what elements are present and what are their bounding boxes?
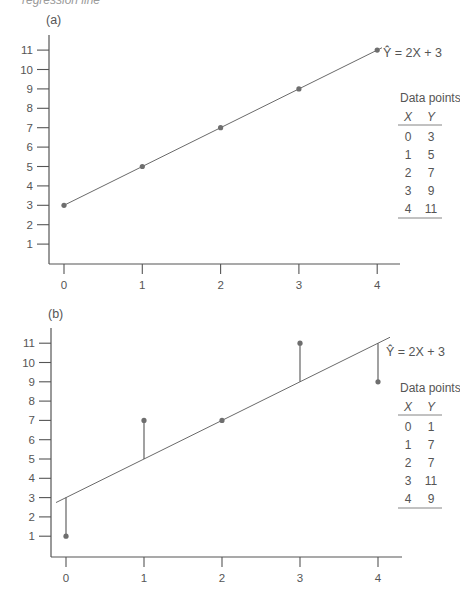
data-point	[140, 164, 145, 169]
table-cell: 9	[428, 184, 435, 198]
y-tick-label: 7	[27, 122, 33, 134]
data-point	[297, 341, 302, 346]
table-cell: 4	[405, 202, 412, 216]
table-cell: 5	[428, 148, 435, 162]
y-tick-label: 9	[27, 83, 33, 95]
data-point	[218, 125, 223, 130]
x-tick-label: 2	[219, 572, 225, 584]
table-cell: 3	[405, 184, 412, 198]
y-tick-label: 2	[27, 219, 33, 231]
table-cell: 11	[425, 202, 438, 216]
y-tick-label: 11	[23, 337, 35, 349]
y-tick-label: 9	[29, 376, 35, 388]
x-tick-label: 4	[374, 279, 381, 291]
regression-equation: Ŷ = 2X + 3	[383, 45, 442, 60]
y-tick-label: 2	[29, 511, 35, 523]
y-tick-label: 3	[29, 492, 35, 504]
table-cell: 7	[428, 438, 435, 452]
table-cell: 1	[405, 438, 412, 452]
table-cell: 3	[405, 474, 412, 488]
chart-panel-b: (b)123456789101101234Ŷ = 2X + 3Data poin…	[22, 307, 460, 584]
table-title: Data points	[400, 381, 460, 395]
panel-label: (b)	[48, 307, 63, 321]
x-tick-label: 4	[375, 572, 382, 584]
data-point	[63, 534, 68, 539]
table-cell: 1	[428, 420, 435, 434]
table-cell: 11	[425, 474, 438, 488]
table-header: X	[403, 400, 413, 414]
x-tick-label: 2	[217, 279, 223, 291]
y-tick-label: 11	[21, 44, 33, 56]
data-point	[219, 418, 224, 423]
data-point	[296, 86, 301, 91]
x-tick-label: 0	[63, 572, 69, 584]
table-cell: 7	[428, 166, 435, 180]
y-tick-label: 5	[27, 161, 33, 173]
table-cell: 7	[428, 456, 435, 470]
y-tick-label: 7	[29, 414, 35, 426]
table-cell: 2	[405, 456, 412, 470]
y-tick-label: 8	[29, 395, 35, 407]
y-tick-label: 4	[29, 472, 36, 484]
regression-line	[64, 48, 382, 206]
regression-equation: Ŷ = 2X + 3	[386, 344, 445, 359]
x-tick-label: 1	[139, 279, 145, 291]
table-cell: 4	[405, 492, 412, 506]
x-tick-label: 0	[61, 279, 67, 291]
table-cell: 1	[405, 148, 412, 162]
table-cell: 0	[405, 420, 412, 434]
data-point	[375, 379, 380, 384]
data-point	[375, 48, 380, 53]
y-tick-label: 1	[27, 238, 33, 250]
x-tick-label: 1	[141, 572, 147, 584]
x-tick-label: 3	[297, 572, 303, 584]
table-cell: 9	[428, 492, 435, 506]
table-cell: 2	[405, 166, 412, 180]
chart-panel-a: (a)123456789101101234Ŷ = 2X + 3Data poin…	[20, 13, 460, 291]
y-tick-label: 1	[29, 530, 35, 542]
y-tick-label: 5	[29, 453, 35, 465]
table-cell: 3	[428, 130, 435, 144]
x-tick-label: 3	[296, 279, 302, 291]
table-header: Y	[427, 110, 436, 124]
table-header: Y	[427, 400, 436, 414]
figure: (a)123456789101101234Ŷ = 2X + 3Data poin…	[0, 0, 460, 595]
data-point	[141, 418, 146, 423]
y-tick-label: 10	[22, 357, 35, 369]
panel-label: (a)	[46, 13, 61, 27]
table-title: Data points	[400, 91, 460, 105]
data-point	[61, 203, 66, 208]
table-header: X	[403, 110, 413, 124]
y-tick-label: 8	[27, 102, 33, 114]
y-tick-label: 3	[27, 199, 33, 211]
y-tick-label: 4	[27, 180, 34, 192]
y-tick-label: 6	[27, 141, 33, 153]
table-cell: 0	[405, 130, 412, 144]
y-tick-label: 6	[29, 434, 35, 446]
y-tick-label: 10	[20, 64, 33, 76]
